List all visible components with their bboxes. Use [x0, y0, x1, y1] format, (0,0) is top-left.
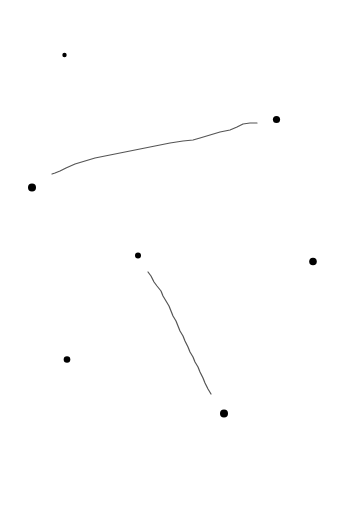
dot-2	[273, 116, 280, 123]
dot-4	[135, 253, 141, 259]
dot-7	[220, 410, 228, 418]
stroke-2	[148, 272, 211, 394]
dot-3	[28, 184, 36, 192]
drawing-canvas[interactable]	[0, 0, 337, 524]
stroke-1	[52, 123, 257, 174]
sketch-layer	[0, 0, 337, 524]
dot-5	[309, 258, 317, 266]
strokes-group	[52, 123, 257, 394]
dot-1	[62, 53, 66, 57]
dot-6	[64, 356, 71, 363]
points-group	[28, 53, 317, 418]
